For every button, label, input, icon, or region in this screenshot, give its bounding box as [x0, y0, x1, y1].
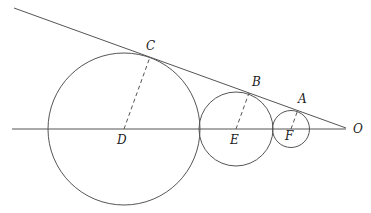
point-label-D: D — [116, 133, 127, 147]
point-label-A: A — [297, 92, 307, 106]
tangent-line — [14, 8, 346, 128]
radius-FA — [291, 111, 298, 129]
point-label-C: C — [146, 39, 155, 53]
point-label-B: B — [251, 75, 261, 89]
point-label-F: F — [284, 129, 294, 143]
radius-DC — [124, 57, 150, 129]
point-label-E: E — [229, 133, 239, 147]
radius-EB — [236, 93, 249, 129]
geometry-diagram: A B C D E F O — [0, 0, 371, 213]
point-label-O: O — [353, 122, 363, 136]
